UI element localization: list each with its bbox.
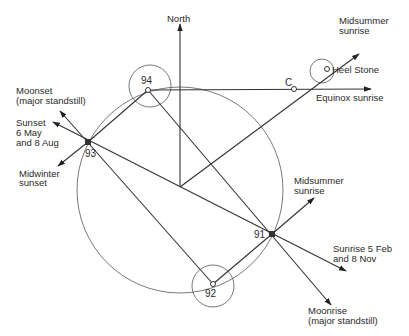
equinox-sunrise-label: Equinox sunrise (316, 92, 384, 103)
heel-stone-label: Heel Stone (332, 64, 379, 75)
sunset-may-label-3: and 8 Aug (16, 137, 59, 148)
heel-stone-marker (325, 67, 330, 72)
line-93-94 (88, 90, 148, 142)
station-91-label: 91 (254, 229, 266, 240)
station-92-label: 92 (205, 288, 217, 299)
moonset-label-2: (major standstill) (16, 95, 86, 106)
midwinter-sunset-label-2: sunset (19, 177, 47, 188)
station-94-marker (146, 88, 151, 93)
midsummer-sunrise-91-label-2: sunrise (294, 185, 325, 196)
station-93-label: 93 (85, 148, 97, 159)
equinox-sunrise-line (148, 89, 371, 90)
midsummer-sunrise-top-label-2: sunrise (339, 25, 370, 36)
stonehenge-alignment-diagram: 94 93 91 92 C North Midsummer sunrise He… (0, 0, 409, 336)
c-point-marker (292, 87, 297, 92)
line-sunset-sunrise-feb (53, 122, 346, 271)
station-93-marker (85, 139, 91, 145)
c-point-label: C (285, 77, 292, 88)
north-label: North (167, 13, 190, 24)
midsummer-sunrise-91-line (272, 198, 314, 234)
station-94-label: 94 (141, 75, 153, 86)
sunrise-feb-label-2: and 8 Nov (333, 253, 377, 264)
line-92-91 (213, 234, 272, 284)
station-91-marker (269, 231, 275, 237)
line-94-moonrise (148, 90, 331, 305)
moonrise-label-2: (major standstill) (308, 315, 378, 326)
heel-stone-ring (310, 59, 334, 83)
station-92-marker (211, 282, 216, 287)
